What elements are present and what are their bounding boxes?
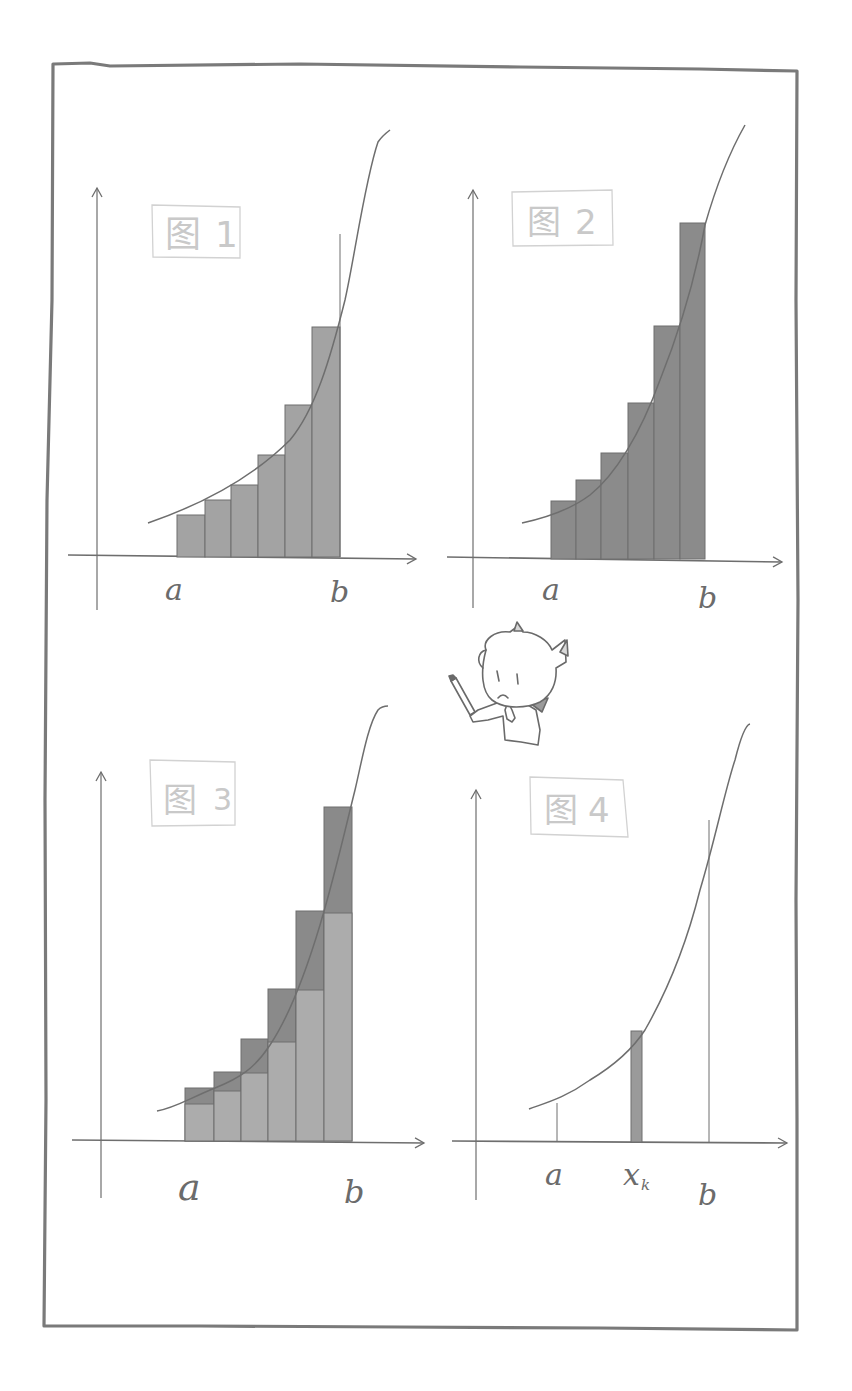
label-a: a	[178, 1165, 201, 1209]
strip-xk	[631, 1031, 642, 1142]
bar	[177, 515, 205, 557]
panel-fig4: 图 4 a x k b	[452, 724, 787, 1212]
bar	[296, 990, 324, 1141]
riemann-sum-illustration: 图 1 a b 图 2	[0, 0, 852, 1391]
lower-sum-bars	[177, 327, 340, 557]
title-num: 4	[588, 790, 610, 830]
label-xk-subscript: k	[641, 1176, 650, 1194]
bar	[268, 1042, 296, 1141]
upper-sum-bars	[551, 223, 705, 559]
bar	[312, 327, 340, 557]
goat-mascot	[449, 622, 568, 745]
bar	[185, 1104, 214, 1141]
label-b: b	[698, 1177, 717, 1212]
panel-fig2: 图 2 a b	[447, 125, 782, 615]
bar	[231, 485, 258, 557]
bar	[205, 500, 231, 557]
title-box-fig2: 图 2	[512, 190, 613, 246]
title-char: 图	[544, 790, 578, 830]
title-num: 3	[213, 782, 232, 817]
title-char: 图	[163, 780, 197, 820]
panel-fig1: 图 1 a b	[68, 130, 416, 610]
eye	[517, 674, 518, 684]
bar	[680, 223, 705, 559]
title-box-fig4: 图 4	[530, 777, 628, 837]
title-num: 2	[575, 202, 597, 242]
bar	[324, 913, 352, 1141]
label-a: a	[545, 1157, 563, 1192]
title-num: 1	[215, 214, 238, 255]
label-a: a	[165, 572, 183, 607]
bar	[258, 455, 285, 557]
title-box-fig1: 图 1	[152, 205, 240, 258]
label-b: b	[698, 580, 717, 615]
pencil-icon	[449, 675, 475, 715]
bar	[214, 1091, 241, 1141]
bar	[241, 1073, 268, 1141]
panel-fig3: 图 3 a b	[72, 706, 424, 1211]
title-char: 图	[165, 214, 201, 255]
label-a: a	[542, 572, 560, 607]
x-axis	[452, 1141, 787, 1143]
title-box-fig3: 图 3	[150, 760, 235, 826]
title-char: 图	[527, 202, 561, 242]
label-b: b	[344, 1173, 364, 1211]
bar	[576, 480, 601, 559]
label-b: b	[330, 574, 349, 609]
label-xk: x	[623, 1157, 640, 1192]
